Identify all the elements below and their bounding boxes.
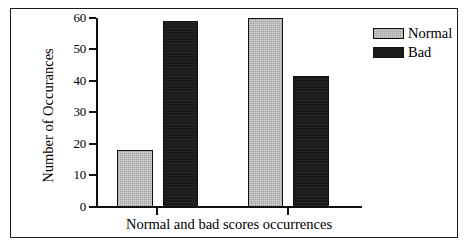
bar-normal-group-2: [248, 18, 283, 207]
y-tick-label-50: 50: [56, 42, 86, 55]
y-tick-20: [89, 143, 96, 145]
y-tick-50: [89, 48, 96, 50]
y-tick-label-30: 30: [56, 105, 86, 118]
y-axis-line: [96, 18, 98, 208]
legend-swatch-normal-icon: [373, 28, 404, 39]
plot-area: 60 50 40 30 20 10 0: [0, 0, 469, 246]
x-tick-group-1: [156, 208, 158, 215]
legend-label-normal: Normal: [408, 26, 452, 41]
y-tick-60: [89, 17, 96, 19]
chart-figure: 60 50 40 30 20 10 0: [0, 0, 469, 246]
legend-swatch-bad-icon: [373, 47, 404, 58]
y-tick-label-60: 60: [56, 11, 86, 24]
legend-item-bad: Bad: [373, 43, 453, 62]
bar-normal-group-1: [117, 150, 153, 207]
x-tick-group-2: [287, 208, 289, 215]
x-axis-title: Normal and bad scores occurrences: [96, 216, 362, 232]
y-tick-label-40: 40: [56, 74, 86, 87]
y-tick-40: [89, 80, 96, 82]
bar-bad-group-1: [163, 21, 198, 207]
y-tick-30: [89, 111, 96, 113]
y-tick-label-20: 20: [56, 137, 86, 150]
chart-legend: Normal Bad: [373, 24, 453, 62]
legend-item-normal: Normal: [373, 24, 453, 43]
bar-bad-group-2: [293, 76, 329, 207]
y-tick-label-0: 0: [56, 200, 86, 213]
y-tick-10: [89, 174, 96, 176]
y-tick-0: [89, 206, 96, 208]
y-axis-title: Number of Occurances: [41, 21, 56, 211]
legend-label-bad: Bad: [408, 45, 431, 60]
y-tick-label-10: 10: [56, 168, 86, 181]
